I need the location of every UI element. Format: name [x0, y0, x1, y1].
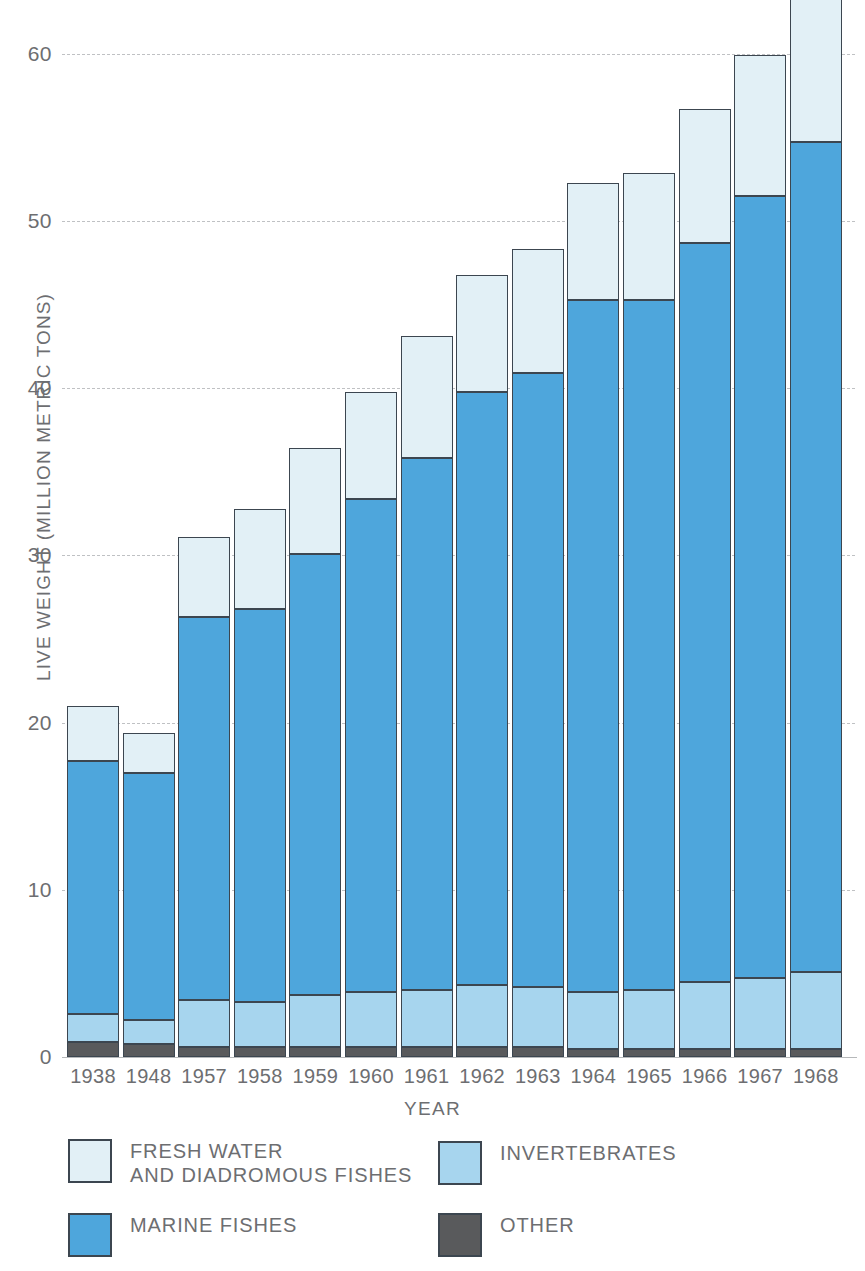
x-tick-label-1967: 1967 — [730, 1066, 790, 1086]
legend-label: OTHER — [500, 1213, 575, 1238]
legend-label: INVERTEBRATES — [500, 1141, 677, 1166]
x-tick-label-1962: 1962 — [452, 1066, 512, 1086]
legend-swatch-icon — [438, 1213, 482, 1257]
legend-item[interactable]: FRESH WATER AND DIADROMOUS FISHES — [68, 1139, 412, 1187]
bar-segment — [178, 537, 230, 617]
bar-segment — [67, 1014, 119, 1042]
bar-segment — [123, 773, 175, 1020]
bar-1960[interactable] — [345, 392, 397, 1057]
y-tick-label: 60 — [6, 43, 52, 64]
x-tick-label-1961: 1961 — [397, 1066, 457, 1086]
bar-segment — [734, 196, 786, 978]
bar-1964[interactable] — [567, 183, 619, 1057]
bar-segment — [345, 499, 397, 992]
bar-segment — [734, 55, 786, 195]
bar-segment — [67, 761, 119, 1013]
x-tick-label-1968: 1968 — [786, 1066, 846, 1086]
legend-item[interactable]: INVERTEBRATES — [438, 1141, 677, 1185]
bar-segment — [67, 706, 119, 761]
bar-segment — [679, 982, 731, 1049]
bar-segment — [289, 448, 341, 553]
bar-segment — [401, 1047, 453, 1057]
bar-1963[interactable] — [512, 249, 564, 1057]
x-tick-label-1963: 1963 — [508, 1066, 568, 1086]
legend: FRESH WATER AND DIADROMOUS FISHESINVERTE… — [0, 1135, 865, 1265]
bar-segment — [178, 1047, 230, 1057]
x-tick-label-1966: 1966 — [675, 1066, 735, 1086]
legend-item[interactable]: OTHER — [438, 1213, 575, 1257]
bar-1959[interactable] — [289, 448, 341, 1057]
bar-segment — [234, 609, 286, 1002]
bar-segment — [567, 1049, 619, 1057]
bar-segment — [234, 1047, 286, 1057]
bar-segment — [401, 336, 453, 458]
bar-segment — [289, 995, 341, 1047]
bar-segment — [234, 509, 286, 609]
legend-swatch-icon — [68, 1139, 112, 1183]
bar-segment — [123, 1020, 175, 1043]
bar-segment — [123, 1044, 175, 1057]
bar-segment — [623, 990, 675, 1049]
chart-root: 0102030405060 LIVE WEIGHT (MILLION METRI… — [0, 0, 865, 1271]
y-tick-label: 0 — [6, 1046, 52, 1067]
x-tick-label-1948: 1948 — [119, 1066, 179, 1086]
bar-segment — [178, 617, 230, 1000]
plot-area: 0102030405060 LIVE WEIGHT (MILLION METRI… — [0, 0, 865, 1065]
bar-segment — [234, 1002, 286, 1047]
bar-segment — [456, 392, 508, 986]
bar-1938[interactable] — [67, 706, 119, 1057]
bar-1958[interactable] — [234, 509, 286, 1057]
bar-segment — [456, 985, 508, 1047]
bar-1957[interactable] — [178, 537, 230, 1057]
gridline-0 — [62, 1057, 857, 1058]
bar-1965[interactable] — [623, 173, 675, 1057]
bar-segment — [790, 142, 842, 971]
bar-segment — [623, 1049, 675, 1057]
x-tick-label-1965: 1965 — [619, 1066, 679, 1086]
bar-1966[interactable] — [679, 109, 731, 1057]
bar-segment — [623, 173, 675, 300]
bar-segment — [567, 992, 619, 1049]
bar-1961[interactable] — [401, 336, 453, 1057]
legend-label: MARINE FISHES — [130, 1213, 297, 1238]
bar-1948[interactable] — [123, 733, 175, 1057]
x-tick-label-1957: 1957 — [174, 1066, 234, 1086]
bar-segment — [679, 1049, 731, 1057]
bar-1968[interactable] — [790, 0, 842, 1057]
x-tick-label-1938: 1938 — [63, 1066, 123, 1086]
bar-segment — [679, 109, 731, 243]
bar-1967[interactable] — [734, 55, 786, 1057]
bar-segment — [456, 1047, 508, 1057]
bar-segment — [512, 1047, 564, 1057]
x-tick-label-1960: 1960 — [341, 1066, 401, 1086]
x-tick-label-1959: 1959 — [285, 1066, 345, 1086]
bar-segment — [345, 992, 397, 1047]
bar-segment — [567, 300, 619, 992]
bar-segment — [512, 249, 564, 373]
legend-swatch-icon — [438, 1141, 482, 1185]
y-axis-title: LIVE WEIGHT (MILLION METRIC TONS) — [33, 207, 55, 767]
bar-segment — [512, 987, 564, 1047]
legend-label: FRESH WATER AND DIADROMOUS FISHES — [130, 1139, 412, 1187]
bar-segment — [345, 392, 397, 499]
bar-segment — [679, 243, 731, 982]
bar-segment — [790, 1049, 842, 1057]
bar-segment — [289, 1047, 341, 1057]
bar-segment — [345, 1047, 397, 1057]
bar-segment — [734, 978, 786, 1048]
x-axis-title: YEAR — [0, 1098, 865, 1120]
legend-swatch-icon — [68, 1213, 112, 1257]
bar-segment — [512, 373, 564, 987]
bar-1962[interactable] — [456, 275, 508, 1057]
bar-segment — [567, 183, 619, 300]
bar-segment — [401, 990, 453, 1047]
bar-segment — [67, 1042, 119, 1057]
bar-segment — [178, 1000, 230, 1047]
bar-segment — [123, 733, 175, 773]
bar-segment — [401, 458, 453, 990]
bar-segment — [456, 275, 508, 392]
bar-segment — [734, 1049, 786, 1057]
legend-item[interactable]: MARINE FISHES — [68, 1213, 297, 1257]
bar-segment — [623, 300, 675, 991]
x-tick-label-1964: 1964 — [563, 1066, 623, 1086]
